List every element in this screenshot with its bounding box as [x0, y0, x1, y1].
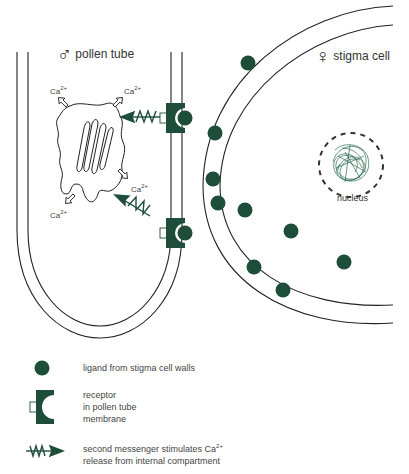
receptor-upper [160, 103, 193, 133]
pollen-tube-walls [17, 52, 182, 338]
legend-second-messenger-icon [26, 446, 63, 456]
second-messenger-arrow-lower [115, 195, 150, 216]
pollen-tube-title: ♂ pollen tube [57, 44, 134, 64]
ca-arrow-bottom-right [116, 167, 130, 181]
pollen-tube-label: pollen tube [75, 47, 134, 61]
stigma-cell-label: stigma cell [333, 49, 390, 63]
ca-arrow-top-right [111, 95, 125, 109]
stigma-cell-title: ♀ stigma cell [315, 46, 390, 66]
legend-receptor-icon [30, 390, 54, 424]
diagram-canvas [0, 0, 409, 474]
ca-label-bottom-left: Ca2+ [50, 209, 67, 220]
female-symbol-icon: ♀ [315, 45, 330, 67]
legend-receptor-text: receptor in pollen tube membrane [83, 389, 137, 425]
nucleus-label: nucleus [337, 194, 368, 203]
ca-label-top-right: Ca2+ [124, 85, 141, 96]
internal-compartment [57, 103, 125, 202]
ca-label-bottom-right: Ca2+ [131, 183, 148, 194]
ca-label-top-left: Ca2+ [50, 85, 67, 96]
legend-ligand-icon [35, 361, 50, 376]
nucleus [319, 133, 383, 197]
male-symbol-icon: ♂ [57, 43, 72, 65]
receptor-lower [160, 218, 193, 248]
legend-second-messenger-text: second messenger stimulates Ca2+ release… [83, 440, 223, 467]
second-messenger-arrow-upper [121, 111, 160, 122]
legend-ligand-text: ligand from stigma cell walls [83, 362, 195, 374]
